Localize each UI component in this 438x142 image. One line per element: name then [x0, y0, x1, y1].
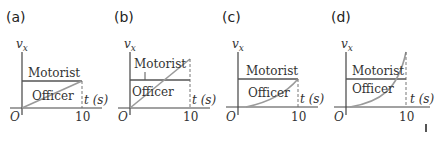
y-axis-label: vx [124, 37, 136, 53]
panel-a: (a) vx Motorist Officer t (s) O 10 [6, 9, 108, 124]
x-axis-label: t (s) [300, 92, 324, 106]
panel-b: (b) vx Motorist Officer t (s) O 10 [114, 9, 216, 124]
tick-label-10: 10 [291, 110, 306, 124]
motorist-label: Motorist [352, 64, 404, 78]
y-axis-label: vx [232, 37, 244, 53]
x-axis-label: t (s) [192, 93, 216, 107]
motorist-label: Motorist [134, 57, 186, 71]
x-axis-label: t (s) [410, 92, 434, 106]
y-axis-label: vx [16, 37, 28, 53]
tick-label-10: 10 [183, 110, 198, 124]
panel-label: (a) [6, 9, 26, 25]
origin-label: O [334, 110, 344, 124]
officer-label: Officer [32, 89, 74, 103]
origin-label: O [10, 110, 20, 124]
panel-label: (b) [114, 9, 134, 25]
y-axis-label: vx [341, 37, 353, 53]
motorist-label: Motorist [246, 64, 298, 78]
panel-c: (c) vx Motorist Officer t (s) O 10 [222, 9, 324, 124]
x-axis-label: t (s) [84, 93, 108, 107]
panel-label: (c) [222, 9, 241, 25]
officer-label: Officer [132, 85, 174, 99]
origin-label: O [118, 110, 128, 124]
panel-d: (d) vx Motorist Officer t (s) O 10 [331, 9, 434, 124]
origin-label: O [226, 110, 236, 124]
motorist-label: Motorist [28, 66, 80, 80]
tick-label-10: 10 [399, 110, 414, 124]
tick-label-10: 10 [75, 110, 90, 124]
officer-label: Officer [248, 86, 290, 100]
text-cursor-mark [425, 124, 427, 132]
officer-label: Officer [352, 82, 394, 96]
figure-canvas: (a) vx Motorist Officer t (s) O 10 (b) v… [0, 0, 438, 142]
panel-label: (d) [331, 9, 351, 25]
